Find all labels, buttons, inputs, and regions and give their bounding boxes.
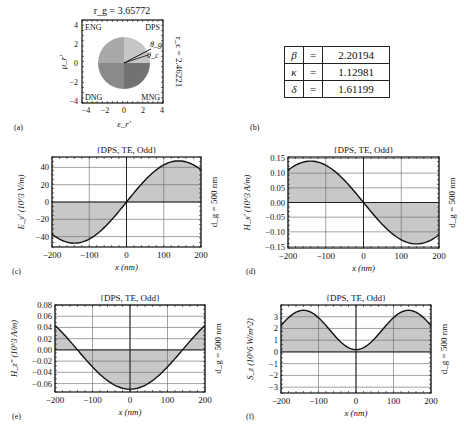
- x-tick-label: 200: [424, 396, 438, 406]
- y-tick-label: 3: [274, 312, 278, 322]
- y-tick-label: −0.10: [265, 227, 285, 237]
- panel-label-c: (c): [12, 267, 21, 276]
- figure-canvas: r_g = 3.65772 θ_g θ_c ENG DPS DNG MNG −4…: [0, 0, 464, 430]
- thickness-label: d_g = 500 nm: [209, 177, 219, 227]
- panel-label-f: (f): [246, 412, 254, 421]
- x-tick-label: 2: [141, 106, 145, 115]
- y-tick-label: −20: [36, 214, 49, 224]
- delta-value: 1.61199: [323, 81, 390, 98]
- y-tick-label: 0.05: [270, 183, 285, 193]
- y-tick-label: 20: [41, 180, 50, 190]
- equals-sign: =: [304, 47, 323, 64]
- table-row: δ = 1.61199: [285, 81, 390, 98]
- y-tick-label: −2: [69, 78, 78, 87]
- x-tick-label: 0: [124, 250, 129, 260]
- panel-a: r_g = 3.65772 θ_g θ_c ENG DPS DNG MNG −4…: [14, 5, 184, 132]
- y-tick-label: 0.02: [37, 334, 52, 344]
- table-row: κ = 1.12981: [285, 64, 390, 81]
- table-row: β = 2.20194: [285, 47, 390, 64]
- x-tick-label: −100: [316, 251, 335, 261]
- x-tick-label: −200: [43, 250, 62, 260]
- x-axis-label: x (nm): [351, 263, 375, 273]
- equals-sign: =: [304, 64, 323, 81]
- quadrant-eng: ENG: [85, 23, 102, 32]
- plot-e: −200−1000100200−0.06−0.04−0.020.000.020.…: [9, 293, 223, 421]
- x-tick-label: 200: [432, 251, 446, 261]
- thickness-label: d_g = 500 nm: [447, 177, 457, 227]
- y-tick-label: 0.00: [37, 345, 52, 355]
- x-axis-label: x (nm): [117, 407, 141, 417]
- y-tick-label: −2: [269, 370, 278, 380]
- y-axis-label: E_y' (10^3 V/m): [16, 174, 26, 230]
- y-tick-label: −1: [269, 359, 278, 369]
- plot-f: −200−1000100200−3−2−10123{DPS, TE, Odd}x…: [245, 293, 449, 421]
- x-tick-label: 100: [161, 395, 175, 405]
- y-tick-label: −0.02: [32, 356, 52, 366]
- quadrant-dps: DPS: [145, 23, 160, 32]
- x-axis-label: x (nm): [343, 408, 367, 418]
- y-tick-label: 4: [74, 21, 78, 30]
- y-tick-label: 0.00: [270, 198, 285, 208]
- x-tick-label: 0: [361, 251, 366, 261]
- field-plots: −200−1000100200−40−2002040{DPS, TE, Odd}…: [9, 145, 457, 421]
- y-tick-label: 0.06: [37, 311, 52, 321]
- beta-value: 2.20194: [323, 47, 390, 64]
- panel-label-e: (e): [12, 412, 21, 421]
- y-tick-label: 2: [274, 323, 278, 333]
- y-tick-label: −0.05: [265, 212, 285, 222]
- y-tick-label: 2: [74, 40, 78, 49]
- x-tick-label: −200: [46, 395, 65, 405]
- panel-label-d: (d): [246, 267, 256, 276]
- x-tick-label: 4: [160, 106, 164, 115]
- x-tick-label: 0: [122, 106, 126, 115]
- y-tick-label: −0.15: [265, 242, 285, 252]
- parameter-table: β = 2.20194 κ = 1.12981 δ = 1.61199: [284, 46, 390, 98]
- rg-label: r_g = 3.65772: [94, 5, 150, 16]
- rc-label: r_c = 2.46221: [174, 37, 184, 87]
- y-tick-label: 0.10: [270, 168, 285, 178]
- plot-c: −200−1000100200−40−2002040{DPS, TE, Odd}…: [12, 145, 219, 276]
- thickness-label: d_g = 500 nm: [439, 324, 449, 374]
- plot-title: {DPS, TE, Odd}: [96, 145, 156, 155]
- x-tick-label: −100: [309, 396, 328, 406]
- x-tick-label: 200: [198, 395, 212, 405]
- y-tick-label: 0.15: [270, 153, 285, 163]
- y-axis-label: H_z'' (10^3 A/m): [9, 320, 19, 378]
- x-tick-label: 0: [128, 395, 133, 405]
- y-axis-label: S_z (10^6 W/m^2): [245, 318, 255, 380]
- x-tick-label: −100: [80, 250, 99, 260]
- plot-title: {DPS, TE, Odd}: [333, 145, 393, 155]
- delta-symbol: δ: [285, 81, 304, 98]
- y-tick-label: 0: [74, 59, 78, 68]
- x-tick-label: −4: [82, 106, 91, 115]
- plot-title: {DPS, TE, Odd}: [326, 293, 386, 303]
- quadrant-mng: MNG: [141, 93, 160, 102]
- equals-sign: =: [304, 81, 323, 98]
- kappa-value: 1.12981: [323, 64, 390, 81]
- x-tick-label: −100: [83, 395, 102, 405]
- y-tick-label: −0.04: [32, 367, 52, 377]
- thickness-label: d_g = 500 nm: [213, 323, 223, 373]
- y-tick-label: 1: [274, 335, 278, 345]
- x-axis-label: ε_r': [117, 119, 132, 129]
- y-tick-label: −0.06: [32, 379, 52, 389]
- x-tick-label: 100: [387, 396, 401, 406]
- y-axis-label: μ_r': [58, 54, 68, 71]
- y-tick-label: 0.08: [37, 300, 52, 310]
- y-tick-label: −40: [36, 232, 49, 242]
- y-tick-label: 40: [41, 162, 50, 172]
- x-tick-label: −200: [279, 251, 298, 261]
- x-tick-label: −2: [101, 106, 110, 115]
- x-tick-label: −200: [272, 396, 291, 406]
- y-tick-label: 0: [274, 347, 278, 357]
- panel-label-a: (a): [14, 123, 23, 132]
- y-tick-label: 0: [45, 197, 49, 207]
- x-tick-label: 100: [395, 251, 409, 261]
- x-axis-label: x (nm): [114, 262, 138, 272]
- quadrant-dng: DNG: [85, 93, 103, 102]
- x-tick-label: 0: [354, 396, 359, 406]
- y-tick-label: −3: [269, 382, 278, 392]
- plot-d: −200−1000100200−0.15−0.10−0.050.000.050.…: [242, 145, 457, 276]
- plot-title: {DPS, TE, Odd}: [100, 293, 160, 303]
- y-axis-label: H_x' (10^3 A/m): [242, 174, 252, 231]
